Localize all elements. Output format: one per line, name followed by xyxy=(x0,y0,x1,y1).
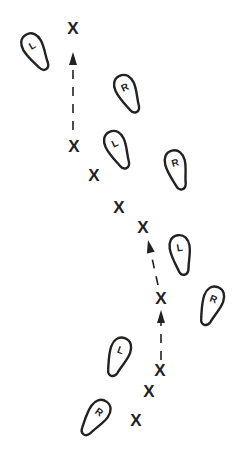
x-mark: X xyxy=(68,138,79,155)
x-mark: X xyxy=(143,383,154,400)
x-mark: X xyxy=(155,290,166,307)
x-mark: X xyxy=(67,20,78,37)
footprint-label: L xyxy=(166,236,193,260)
x-mark: X xyxy=(137,219,148,236)
x-mark: X xyxy=(154,362,165,379)
x-mark: X xyxy=(130,412,141,429)
direction-arrow-icon xyxy=(147,240,158,285)
direction-arrow-icon xyxy=(157,310,165,360)
footprint-walking-diagram: LRLRLRLR XXXXXXXXX xyxy=(0,0,239,457)
x-mark: X xyxy=(113,199,124,216)
direction-arrow-icon xyxy=(69,52,77,130)
x-mark: X xyxy=(88,167,99,184)
